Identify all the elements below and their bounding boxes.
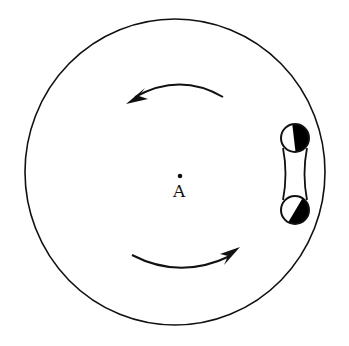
platform-circle <box>25 19 325 325</box>
rotation-arrow-bottom <box>132 247 240 268</box>
cart-body <box>283 148 286 200</box>
center-label: A <box>173 181 185 201</box>
diagram-canvas <box>0 0 349 346</box>
cart-with-two-wheels <box>281 122 312 226</box>
center-point <box>178 174 183 179</box>
rotation-arrow-top <box>126 85 223 105</box>
